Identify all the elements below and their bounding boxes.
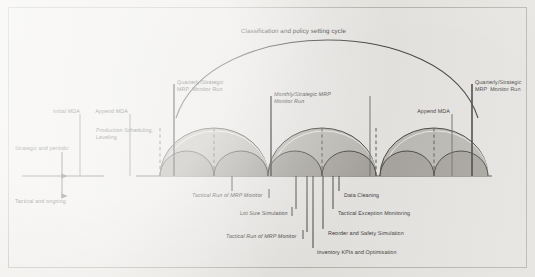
milestone-production-scheduling: Production Scheduling, Leveling [96,128,153,141]
callout-inventory-kpis-optimisation: Inventory KPIs and Optimisation [317,250,396,257]
callout-tactical-run-mrp-monitor-2: Tactical Run of MRP Monitor [226,234,296,241]
cycle-arc-label: Classification and policy setting cycle [241,29,346,36]
axis-bottom-label: Tactical and ongoing [15,199,66,206]
callout-tactical-run-mrp-monitor-1: Tactical Run of MRP Monitor [192,193,262,200]
classification-cycle-arc [176,40,478,118]
callout-lot-size-simulation: Lot Size Simulation [240,211,288,218]
diagram-page: Classification and policy setting cycle … [0,0,535,277]
callout-reorder-safety-simulation: Reorder and Safety Simulation [328,231,404,238]
milestone-append-mda-1: Append MDA [82,109,128,116]
left-axis-group [22,114,130,196]
milestone-monthly-mrp: Monthly/Strategic MRP Monitor Run [274,92,331,105]
milestone-append-mda-2: Append MDA [406,109,450,116]
arch-group-2 [268,96,376,176]
arch-group-3 [380,84,488,176]
axis-top-label: Strategic and periodic [15,146,69,153]
callout-tactical-exception-monitoring: Tactical Exception Monitoring [338,211,410,218]
milestone-initial-mda: Initial MDA [34,109,80,116]
callout-data-cleaning: Data Cleaning [344,193,379,200]
arch-group-1 [160,84,268,176]
milestone-quarterly-mrp-right: Quarterly/Strategic MRP Monitor Run [475,80,521,93]
milestone-quarterly-mrp-left: Quarterly/Strategic MRP Monitor Run [177,80,223,93]
